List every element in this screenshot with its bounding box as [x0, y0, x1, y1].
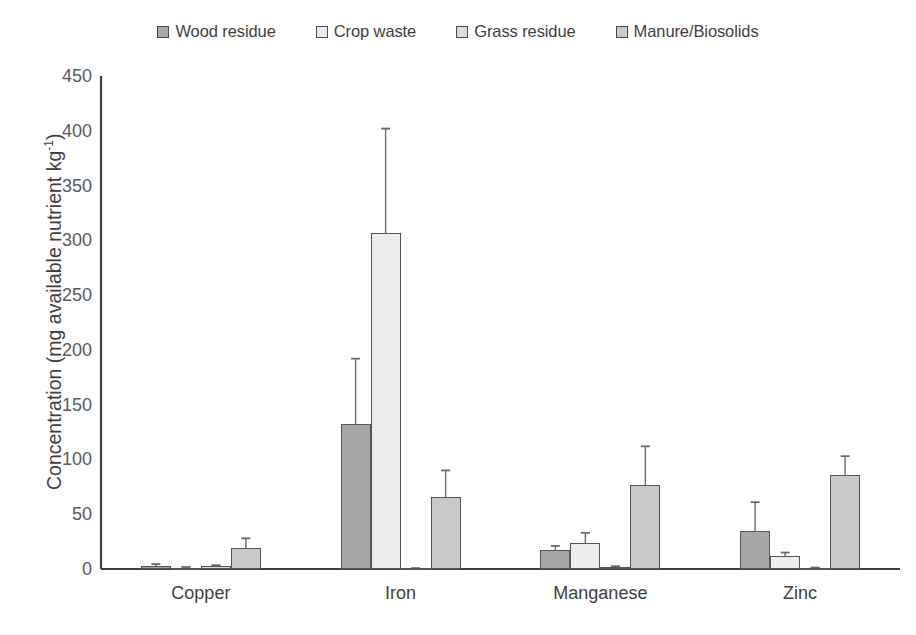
bar	[201, 566, 231, 569]
bar	[231, 548, 261, 569]
bar	[740, 531, 770, 569]
bar	[341, 424, 371, 569]
x-tick-label: Zinc	[700, 583, 900, 604]
bar	[401, 568, 431, 570]
bar	[141, 566, 171, 569]
y-tick-label: 150	[46, 396, 92, 414]
y-tick-label: 450	[46, 67, 92, 85]
bar	[570, 543, 600, 569]
bar	[540, 550, 570, 569]
x-tick-label: Copper	[101, 583, 301, 604]
bar-chart: Wood residueCrop wasteGrass residueManur…	[0, 0, 916, 635]
bar	[431, 497, 461, 569]
bar	[770, 556, 800, 569]
y-tick-label: 200	[46, 341, 92, 359]
y-axis-tick-labels: 050100150200250300350400450	[42, 0, 92, 635]
x-tick-label: Iron	[301, 583, 501, 604]
bar	[830, 475, 860, 569]
y-tick-label: 300	[46, 231, 92, 249]
y-tick-label: 350	[46, 177, 92, 195]
y-tick-label: 400	[46, 122, 92, 140]
y-tick-label: 250	[46, 286, 92, 304]
x-tick-label: Manganese	[501, 583, 701, 604]
y-tick-label: 0	[46, 560, 92, 578]
y-tick-label: 100	[46, 450, 92, 468]
bar	[600, 567, 630, 569]
y-tick-label: 50	[46, 505, 92, 523]
plot-area: Concentration (mg available nutrient kg-…	[0, 0, 916, 635]
bar	[630, 485, 660, 569]
bar	[800, 568, 830, 570]
bar	[171, 568, 201, 570]
bar	[371, 233, 401, 569]
